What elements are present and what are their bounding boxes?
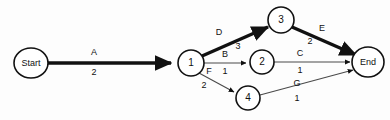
node-3[interactable]: 3 — [268, 7, 294, 33]
edge-g-weight: 1 — [294, 93, 299, 103]
node-end-label: End — [360, 57, 376, 67]
network-diagram-svg: A 2 D 3 B 1 F 2 E 2 C — [0, 0, 390, 120]
node-start-label: Start — [21, 58, 41, 68]
node-4-label: 4 — [245, 92, 251, 103]
edge-c-activity-c: C 1 — [274, 48, 350, 75]
node-1[interactable]: 1 — [178, 50, 204, 76]
node-end[interactable]: End — [352, 47, 384, 77]
edge-g-line — [260, 70, 353, 95]
edge-c-label: C — [297, 48, 304, 58]
edge-g-label: G — [293, 78, 300, 88]
edge-f-weight: 2 — [201, 80, 206, 90]
edge-e-label: E — [319, 23, 325, 33]
edge-f-activity-f: F 2 — [199, 66, 234, 92]
edge-d-weight: 3 — [235, 41, 240, 51]
node-2-label: 2 — [259, 56, 265, 67]
edge-f-label: F — [206, 66, 212, 76]
node-start[interactable]: Start — [14, 48, 48, 78]
edge-c-weight: 1 — [297, 65, 302, 75]
edge-a-label: A — [91, 47, 97, 57]
edge-a-activity-a: A 2 — [48, 47, 171, 77]
edge-b-weight: 1 — [222, 66, 227, 76]
node-4[interactable]: 4 — [236, 86, 260, 110]
network-diagram-canvas: A 2 D 3 B 1 F 2 E 2 C — [0, 0, 390, 120]
edge-e-weight: 2 — [307, 36, 312, 46]
edge-a-weight: 2 — [91, 67, 96, 77]
node-1-label: 1 — [188, 57, 194, 68]
edge-b-label: B — [222, 49, 228, 59]
edge-d-label: D — [216, 27, 223, 37]
node-3-label: 3 — [278, 14, 284, 25]
node-2[interactable]: 2 — [250, 50, 274, 74]
edge-g-activity-g: G 1 — [260, 70, 353, 103]
